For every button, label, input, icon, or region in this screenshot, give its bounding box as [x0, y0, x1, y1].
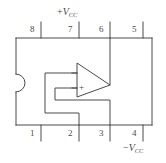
pin-number-1: 1 [30, 129, 35, 138]
negative-supply-subscript: CC [135, 147, 143, 154]
pin-leads-bottom [41, 125, 143, 141]
pin-number-8: 8 [30, 25, 35, 34]
noninverting-input-plus-mark: + [79, 83, 84, 92]
positive-supply-subscript: CC [69, 11, 77, 18]
pin-leads-top [41, 22, 143, 38]
wire-noninverting-to-pin3 [55, 88, 110, 125]
pin-number-5: 5 [132, 25, 137, 34]
pin-number-4: 4 [132, 129, 137, 138]
dip-package-outline [16, 38, 152, 125]
negative-supply-label: −VCC [123, 143, 143, 154]
opamp-input-stubs [72, 73, 77, 88]
schematic-figure: 8 7 6 5 1 2 3 4 +VCC −VCC + [0, 0, 166, 163]
pin-number-2: 2 [68, 129, 73, 138]
positive-supply-label: +VCC [57, 7, 77, 18]
package-notch-icon [16, 74, 25, 92]
pin-number-6: 6 [99, 25, 104, 34]
wire-inverting-feedback [45, 73, 79, 125]
pin-number-3: 3 [99, 129, 104, 138]
pin-number-7: 7 [68, 25, 73, 34]
